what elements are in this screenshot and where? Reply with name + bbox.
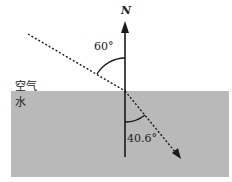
refraction-angle-label: 40.6° xyxy=(127,132,157,145)
water-region xyxy=(11,91,229,177)
incidence-angle-arc xyxy=(97,58,125,74)
water-label: 水 xyxy=(15,93,26,109)
air-label: 空气 xyxy=(15,77,37,93)
incidence-angle-label: 60° xyxy=(94,40,114,53)
normal-arrowhead-icon xyxy=(121,21,129,33)
normal-label: N xyxy=(121,4,131,17)
